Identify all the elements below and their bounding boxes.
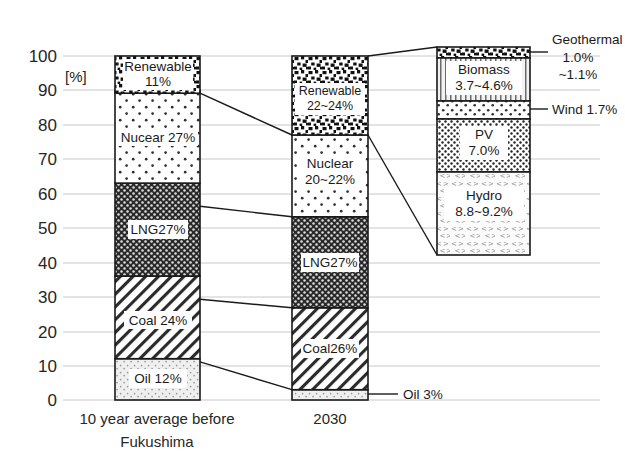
category-label-base-line1: 10 year average before	[79, 410, 234, 427]
segment-label-nuclear-base: Nucear 27%	[118, 128, 198, 146]
segment-label-oil-base: Oil 12%	[129, 369, 187, 388]
segment-label-nuclear-2030-line1: Nuclear	[307, 156, 354, 171]
segment-label-biomass-detail-line2: 3.7~4.6%	[455, 78, 512, 93]
segment-wind-detail[interactable]	[437, 101, 530, 119]
y-tick-70: 70	[38, 150, 57, 169]
segment-label-renewable-base: Renewable 11%	[123, 59, 193, 90]
segment-label-nuclear-2030-line2: 20~22%	[305, 172, 355, 187]
category-label-2030: 2030	[313, 410, 346, 427]
bar-base-period[interactable]: Renewable 11% Nucear 27% LNG27% Coal 24%…	[115, 56, 200, 400]
callout-wind: Wind 1.7%	[530, 102, 617, 117]
callout-geothermal-line1: Geothermal	[552, 32, 623, 47]
y-tick-30: 30	[38, 288, 57, 307]
segment-label-lng-2030: LNG27%	[301, 253, 359, 272]
y-axis-unit-label: [%]	[65, 68, 87, 85]
segment-label-coal-base: Coal 24%	[124, 311, 192, 329]
segment-label-nuclear-base-text: Nucear 27%	[121, 130, 195, 145]
segment-label-renewable-2030: Renewable 22~24%	[295, 83, 365, 115]
segment-label-hydro-detail-line1: Hydro	[466, 188, 502, 203]
segment-oil-2030[interactable]	[292, 390, 368, 400]
callout-oil-2030-label: Oil 3%	[403, 387, 443, 402]
y-tick-100: 100	[29, 47, 57, 66]
y-tick-80: 80	[38, 116, 57, 135]
segment-label-coal-base-text: Coal 24%	[129, 313, 188, 328]
segment-label-biomass-detail: Biomass 3.7~4.6%	[446, 61, 522, 95]
y-tick-0: 0	[48, 391, 57, 410]
segment-label-nuclear-2030: Nuclear 20~22%	[298, 155, 362, 189]
segment-label-renewable-2030-line1: Renewable	[299, 84, 362, 98]
callout-geothermal-line2: 1.0%	[563, 50, 594, 65]
segment-geothermal-detail[interactable]	[437, 47, 530, 58]
y-tick-40: 40	[38, 254, 57, 273]
segment-label-renewable-2030-line2: 22~24%	[307, 99, 353, 113]
chart-canvas: < > < > 100 90 80 70 60 50 40 30 20 10 0…	[0, 0, 625, 468]
y-tick-60: 60	[38, 185, 57, 204]
segment-label-coal-2030: Coal26%	[301, 339, 359, 358]
segment-label-lng-base: LNG27%	[128, 220, 188, 239]
category-label-base-line2: Fukushima	[120, 433, 194, 450]
y-tick-90: 90	[38, 81, 57, 100]
callout-geothermal: Geothermal 1.0% ~1.1%	[530, 32, 623, 82]
segment-label-hydro-detail: Hydro 8.8~9.2%	[444, 187, 524, 221]
connector-lines-base-to-2030	[200, 93, 292, 390]
bar-2030[interactable]: Renewable 22~24% Nuclear 20~22% LNG27% C…	[292, 56, 368, 400]
y-tick-20: 20	[38, 323, 57, 342]
segment-label-lng-2030-text: LNG27%	[303, 255, 358, 270]
callout-wind-label: Wind 1.7%	[552, 102, 617, 117]
segment-label-renewable-base-line2: 11%	[145, 74, 171, 89]
segment-label-pv-detail: PV 7.0%	[460, 126, 508, 160]
stacked-bar-chart: < > < > 100 90 80 70 60 50 40 30 20 10 0…	[0, 0, 625, 468]
x-axis-labels: 10 year average before Fukushima 2030	[79, 410, 346, 450]
connector-lines-2030-to-detail	[368, 47, 437, 255]
segment-label-pv-detail-line2: 7.0%	[469, 143, 500, 158]
callout-geothermal-line3: ~1.1%	[559, 67, 598, 82]
segment-label-biomass-detail-line1: Biomass	[458, 62, 510, 77]
segment-label-coal-2030-text: Coal26%	[303, 341, 358, 356]
segment-label-pv-detail-line1: PV	[475, 127, 493, 142]
y-tick-10: 10	[38, 357, 57, 376]
segment-label-lng-base-text: LNG27%	[131, 222, 186, 237]
segment-label-hydro-detail-line2: 8.8~9.2%	[455, 204, 512, 219]
segment-label-renewable-base-line1: Renewable	[124, 59, 192, 74]
detail-bar-renewable-breakdown[interactable]: Biomass 3.7~4.6% PV 7.0% Hydro 8.8~9.2%	[437, 47, 530, 255]
y-tick-50: 50	[38, 219, 57, 238]
segment-label-oil-base-text: Oil 12%	[134, 371, 181, 386]
